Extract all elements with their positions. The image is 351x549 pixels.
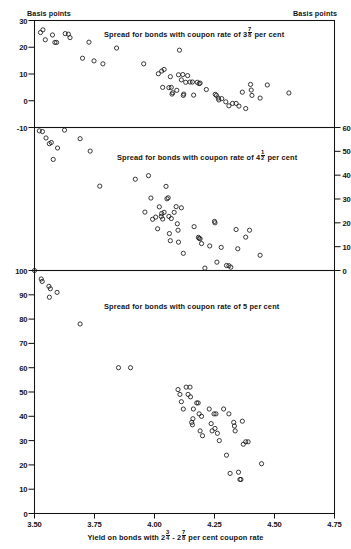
data-point-marker xyxy=(237,104,241,108)
data-point-marker xyxy=(244,106,248,110)
data-point-marker xyxy=(197,412,201,416)
data-point-marker xyxy=(250,93,254,97)
panel-2-y-tick-label: 40 xyxy=(343,171,351,180)
data-point-marker xyxy=(149,196,153,200)
data-point-marker xyxy=(51,157,55,161)
data-point-marker xyxy=(176,240,180,244)
x-axis-tick-label: 4.75 xyxy=(327,520,341,529)
data-point-marker xyxy=(55,290,59,294)
x-axis-tick-label: 3.75 xyxy=(87,520,101,529)
figure-scatter-panels: Basis points Basis points 3020100-106050… xyxy=(0,0,351,549)
data-point-marker xyxy=(41,28,45,32)
data-point-marker xyxy=(208,244,212,248)
panel-3-y-tick-label: 20 xyxy=(19,460,27,469)
data-point-marker xyxy=(199,241,203,245)
panel-2-y-tick-label: 0 xyxy=(343,266,347,275)
data-point-marker xyxy=(191,407,195,411)
data-point-marker xyxy=(176,73,180,77)
data-point-marker xyxy=(186,74,190,78)
data-point-marker xyxy=(199,414,203,418)
panel-1-title: Spread for bonds with coupon rate of 378… xyxy=(104,27,284,39)
data-point-marker xyxy=(241,442,245,446)
basis-points-label-left: Basis points xyxy=(27,9,71,18)
x-axis-label-prefix: Yield on bonds with 2 xyxy=(88,533,166,542)
data-point-marker xyxy=(236,470,240,474)
data-point-marker xyxy=(178,392,182,396)
panel-2-title: Spread for bonds with coupon rate of 412… xyxy=(117,150,297,162)
panel-3-y-tick-label: 50 xyxy=(19,388,27,397)
data-point-marker xyxy=(190,423,194,427)
data-point-marker xyxy=(116,366,120,370)
data-point-marker xyxy=(215,260,219,264)
data-point-marker xyxy=(217,439,221,443)
data-point-marker xyxy=(78,137,82,141)
panel-1-y-tick-label: 30 xyxy=(19,16,27,25)
data-point-marker xyxy=(192,93,196,97)
data-point-marker xyxy=(168,75,172,79)
data-point-marker xyxy=(179,78,183,82)
data-point-marker xyxy=(186,392,190,396)
data-point-marker xyxy=(98,184,102,188)
data-point-marker xyxy=(101,62,105,66)
data-point-marker xyxy=(43,38,47,42)
x-axis-tick-label: 4.25 xyxy=(207,520,221,529)
data-point-marker xyxy=(146,174,150,178)
data-point-marker xyxy=(172,210,176,214)
data-point-marker xyxy=(44,136,48,140)
data-point-marker xyxy=(168,239,172,243)
panel-3-title: Spread for bonds with coupon rate of 5 p… xyxy=(104,302,279,311)
x-axis-label-suffix: per cent coupon rate xyxy=(186,533,263,542)
data-point-marker xyxy=(176,228,180,232)
data-point-marker xyxy=(233,429,237,433)
panel-2-title-prefix: Spread for bonds with coupon rate of 4 xyxy=(117,153,260,162)
data-point-marker xyxy=(213,92,217,96)
panel-3-y-tick-label: 10 xyxy=(19,485,27,494)
data-point-marker xyxy=(154,215,158,219)
data-point-marker xyxy=(47,295,51,299)
data-point-marker xyxy=(156,227,160,231)
data-point-marker xyxy=(68,36,72,40)
data-point-marker xyxy=(213,426,217,430)
panel-3-y-tick-label: 100 xyxy=(15,266,27,275)
data-point-marker xyxy=(249,88,253,92)
data-point-marker xyxy=(224,453,228,457)
panel-2-title-suffix: per cent xyxy=(265,153,297,162)
data-point-marker xyxy=(88,149,92,153)
data-point-marker xyxy=(244,235,248,239)
data-point-marker xyxy=(240,419,244,423)
data-point-marker xyxy=(87,40,91,44)
panel-2-frame xyxy=(35,128,335,271)
panel-3-y-tick-label: 90 xyxy=(19,290,27,299)
basis-points-label-right: Basis points xyxy=(293,9,337,18)
data-point-marker xyxy=(164,184,168,188)
data-point-marker xyxy=(287,91,291,95)
data-point-marker xyxy=(171,91,175,95)
panel-3-y-tick-label: 30 xyxy=(19,436,27,445)
panel-1-y-tick-label: -10 xyxy=(17,123,28,132)
x-axis-label: Yield on bonds with 234 - 278 per cent c… xyxy=(0,530,351,542)
data-point-marker xyxy=(207,407,211,411)
data-point-marker xyxy=(179,206,183,210)
data-point-marker xyxy=(92,59,96,63)
x-axis-label-mid: - 2 xyxy=(170,533,181,542)
plot-canvas xyxy=(0,0,351,549)
data-point-marker xyxy=(62,128,66,132)
data-point-marker xyxy=(50,33,54,37)
data-point-marker xyxy=(181,72,185,76)
data-point-marker xyxy=(181,251,185,255)
data-point-marker xyxy=(114,46,118,50)
panel-3-y-tick-label: 60 xyxy=(19,363,27,372)
panel-2-y-tick-label: 20 xyxy=(343,218,351,227)
data-point-marker xyxy=(38,30,42,34)
panel-3-y-tick-label: 40 xyxy=(19,412,27,421)
data-point-marker xyxy=(265,83,269,87)
data-point-marker xyxy=(192,225,196,229)
data-point-marker xyxy=(248,82,252,86)
data-point-marker xyxy=(166,196,170,200)
data-point-marker xyxy=(198,429,202,433)
data-point-marker xyxy=(258,253,262,257)
data-point-marker xyxy=(200,434,204,438)
panel-1-title-suffix: per cent xyxy=(252,30,284,39)
data-point-marker xyxy=(175,88,179,92)
data-point-marker xyxy=(167,231,171,235)
